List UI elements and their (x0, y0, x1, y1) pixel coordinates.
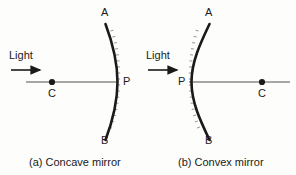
diagram-canvas (0, 0, 296, 175)
light-label-a: Light (9, 50, 33, 61)
mirror-bottom-label-b: B (205, 135, 212, 146)
light-label-b: Light (146, 50, 170, 61)
pole-label-a: P (123, 76, 130, 87)
caption-b: (b) Convex mirror (178, 157, 264, 168)
panel-b-convex-mirror (148, 24, 290, 140)
caption-a: (a) Concave mirror (29, 157, 121, 168)
pole-label-b: P (178, 76, 185, 87)
center-of-curvature-label-a: C (48, 88, 56, 99)
center-of-curvature-label-b: C (258, 88, 266, 99)
center-of-curvature-point-b (259, 79, 265, 85)
center-of-curvature-point-a (49, 79, 55, 85)
mirror-top-label-b: A (205, 7, 212, 18)
mirror-bottom-label-a: B (101, 135, 108, 146)
mirror-top-label-a: A (101, 7, 108, 18)
panel-a-concave-mirror (11, 24, 120, 140)
optics-diagram-figure: Light A B C P (a) Concave mirror Light A… (0, 0, 296, 175)
